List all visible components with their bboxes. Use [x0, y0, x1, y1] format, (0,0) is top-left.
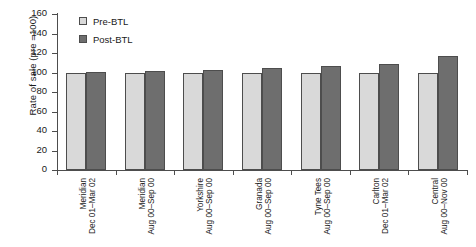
- x-axis-category-line: Tyne Tees: [314, 178, 323, 247]
- x-axis-category-line: Carlton: [372, 178, 381, 247]
- x-axis-tick-mark: [233, 170, 234, 175]
- x-axis-category-line: Dec 01–Mar 02: [89, 178, 98, 247]
- legend-swatch-post-icon: [79, 35, 87, 43]
- legend-label-post: Post-BTL: [93, 34, 133, 45]
- x-axis-category-line: Meridian: [79, 178, 88, 247]
- bar-pre-btl: [183, 73, 203, 171]
- x-axis-tick-mark: [291, 170, 292, 175]
- y-axis-tick-label: 40: [36, 124, 47, 135]
- bar-pre-btl: [359, 73, 379, 171]
- x-axis-tick-mark: [467, 170, 468, 175]
- bar-group: [301, 14, 341, 170]
- x-axis-category-line: Aug 00–Sep 00: [206, 178, 215, 247]
- bar-group: [418, 14, 458, 170]
- bar-post-btl: [145, 71, 165, 170]
- x-axis-tick-mark: [174, 170, 175, 175]
- bar-group: [183, 14, 223, 170]
- legend: Pre-BTL Post-BTL: [79, 14, 133, 50]
- bar-group: [242, 14, 282, 170]
- x-axis-tick-mark: [57, 170, 58, 175]
- x-axis-category-line: Central: [431, 178, 440, 247]
- y-axis-tick-label: 80: [36, 85, 47, 96]
- bar-post-btl: [379, 64, 399, 170]
- x-axis-category-line: Aug 00–Nov 00: [440, 178, 449, 247]
- bar-post-btl: [262, 68, 282, 170]
- x-axis-category-line: Dec 01–Mar 02: [382, 178, 391, 247]
- bar-pre-btl: [418, 73, 438, 171]
- y-axis-tick-label: 20: [36, 144, 47, 155]
- x-axis-category-line: Aug 00–Sep 00: [147, 178, 156, 247]
- bar-post-btl: [321, 66, 341, 170]
- x-axis-category-label: MeridianDec 01–Mar 02: [79, 178, 92, 247]
- x-axis-category-line: Yorkshire: [196, 178, 205, 247]
- bar-pre-btl: [125, 73, 145, 171]
- x-axis-category-label: Tyne TeesAug 00–Sep 00: [314, 178, 327, 247]
- x-axis-category-label: CentralAug 00–Nov 00: [431, 178, 444, 247]
- x-axis-category-label: MeridianAug 00–Sep 00: [138, 178, 151, 247]
- x-axis-category-line: Aug 00–Sep 00: [323, 178, 332, 247]
- bar-post-btl: [438, 56, 458, 170]
- bar-pre-btl: [242, 73, 262, 171]
- bar-post-btl: [86, 72, 106, 170]
- bar-post-btl: [203, 70, 223, 170]
- x-axis-tick-mark: [408, 170, 409, 175]
- x-axis-line: [57, 170, 467, 171]
- y-axis-tick-label: 160: [31, 7, 47, 18]
- x-axis-category-line: Meridian: [138, 178, 147, 247]
- y-axis-tick-label: 0: [42, 163, 47, 174]
- y-axis-tick-label: 60: [36, 105, 47, 116]
- x-axis-category-label: YorkshireAug 00–Sep 00: [196, 178, 209, 247]
- y-axis-tick-label: 100: [31, 66, 47, 77]
- bar-chart: Rate of sale (pre =100) 0204060801001201…: [0, 0, 476, 247]
- legend-label-pre: Pre-BTL: [93, 16, 128, 27]
- x-axis-category-label: CarltonDec 01–Mar 02: [372, 178, 385, 247]
- x-axis-tick-mark: [116, 170, 117, 175]
- x-axis-category-label: GranadaAug 00–Sep 00: [255, 178, 268, 247]
- legend-item-pre: Pre-BTL: [79, 14, 133, 28]
- x-axis-category-line: Granada: [255, 178, 264, 247]
- y-axis-tick-label: 140: [31, 27, 47, 38]
- x-axis-tick-mark: [350, 170, 351, 175]
- bar-pre-btl: [66, 73, 86, 171]
- bar-pre-btl: [301, 73, 321, 171]
- y-axis-tick-label: 120: [31, 46, 47, 57]
- x-axis-category-line: Aug 00–Sep 00: [264, 178, 273, 247]
- legend-swatch-pre-icon: [79, 17, 87, 25]
- bar-group: [359, 14, 399, 170]
- legend-item-post: Post-BTL: [79, 32, 133, 46]
